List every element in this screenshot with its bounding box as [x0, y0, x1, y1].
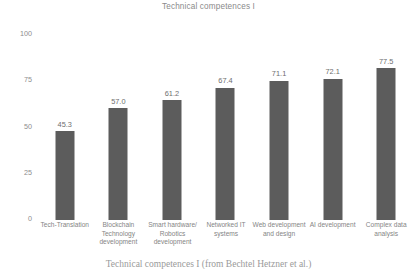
x-axis-category-label: Blockchain Technology development — [92, 221, 146, 247]
bar-group: 45.3 — [38, 24, 92, 220]
bar[interactable] — [216, 88, 235, 220]
x-axis-category-label: Complex data analysis — [359, 221, 413, 238]
bar-value-label: 72.1 — [325, 68, 339, 76]
bar[interactable] — [55, 131, 74, 220]
bar[interactable] — [377, 68, 396, 220]
chart-title: Technical competences I — [0, 2, 417, 11]
y-axis-tick-label: 100 — [20, 30, 32, 38]
bar[interactable] — [109, 108, 128, 220]
y-axis: 100 75 50 25 0 — [0, 24, 38, 220]
bar-value-label: 57.0 — [111, 98, 125, 106]
y-axis-tick-label: 50 — [24, 123, 32, 131]
y-axis-tick-label: 0 — [28, 215, 32, 223]
bar[interactable] — [323, 79, 342, 220]
bar-value-label: 77.5 — [379, 58, 393, 66]
y-axis-tick-label: 25 — [24, 169, 32, 177]
bar-group: 77.5 — [359, 24, 413, 220]
bar-value-label: 67.4 — [218, 77, 232, 85]
x-axis-category-label: Web development and design — [252, 221, 306, 238]
figure-caption: Technical competences I (from Bechtel He… — [0, 259, 417, 269]
x-axis-category-label: AI development — [306, 221, 360, 230]
bars-layer: 45.3 57.0 61.2 67.4 71.1 72.1 77.5 — [38, 24, 413, 220]
bar-group: 61.2 — [145, 24, 199, 220]
bar-group: 72.1 — [306, 24, 360, 220]
bar-group: 57.0 — [92, 24, 146, 220]
x-axis-category-label: Networked IT systems — [199, 221, 253, 238]
bar-value-label: 45.3 — [58, 121, 72, 129]
x-axis-category-label: Smart hardware/ Robotics development — [145, 221, 200, 247]
bar-group: 71.1 — [252, 24, 306, 220]
y-axis-tick-label: 75 — [24, 76, 32, 84]
x-axis: Tech-Translation Blockchain Technology d… — [38, 221, 413, 261]
bar[interactable] — [270, 81, 289, 220]
bar[interactable] — [162, 100, 181, 220]
bar-value-label: 61.2 — [165, 90, 179, 98]
bar-group: 67.4 — [199, 24, 253, 220]
x-axis-category-label: Tech-Translation — [38, 221, 92, 230]
bar-value-label: 71.1 — [272, 70, 286, 78]
